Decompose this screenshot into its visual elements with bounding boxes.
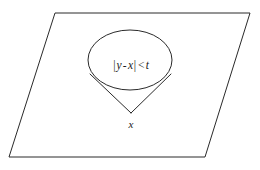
parallelogram-plane <box>9 13 250 157</box>
figure-container: |y-x|<t x <box>0 0 260 170</box>
cone-right-edge <box>131 74 171 113</box>
cone-left-edge <box>90 74 131 113</box>
diagram-canvas <box>0 0 260 170</box>
cone-cross-section-ellipse <box>88 30 172 90</box>
